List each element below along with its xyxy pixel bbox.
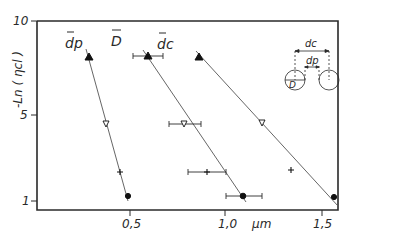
marker-D-circle <box>240 193 246 199</box>
y-tick-5: 5 <box>20 108 28 122</box>
marker-dc-plus <box>288 167 294 173</box>
markers <box>85 52 337 200</box>
marker-dp-open-triangle <box>103 121 109 127</box>
fit-lines <box>86 49 338 206</box>
svg-text:dc: dc <box>305 38 317 49</box>
marker-dc-circle <box>331 194 336 199</box>
series-label-dc: dc <box>157 33 174 52</box>
marker-dp-plus <box>117 169 123 175</box>
x-tick-1-5: 1,5 <box>313 217 332 231</box>
fit-line-dc <box>196 51 338 206</box>
marker-D-plus <box>204 169 210 175</box>
series-label-D: D <box>111 30 122 49</box>
marker-dc-triangle <box>195 53 203 60</box>
x-tick-1-0: 1,0 <box>218 217 237 231</box>
svg-text:D: D <box>289 80 296 90</box>
series-labels: dp D dc <box>65 30 174 52</box>
x-axis-ticks <box>130 210 322 216</box>
fit-line-D <box>143 50 246 202</box>
y-axis-ticks <box>31 21 37 201</box>
efficiency-vs-diameter-chart: 10 5 1 -Ln ( ηcl ) 0,5 1,0 1,5 µm dp D d… <box>0 0 393 243</box>
chart-container: 10 5 1 -Ln ( ηcl ) 0,5 1,0 1,5 µm dp D d… <box>0 0 393 243</box>
marker-dp-triangle <box>85 53 93 60</box>
y-tick-10: 10 <box>13 14 29 28</box>
y-axis-label: -Ln ( ηcl ) <box>11 51 25 108</box>
inset-labels: dc dp D <box>289 38 319 90</box>
y-axis-tick-labels: 10 5 1 <box>13 14 30 208</box>
series-label-dp: dp <box>65 32 83 51</box>
svg-text:D: D <box>111 33 122 49</box>
x-axis-unit-label: µm <box>251 217 271 231</box>
svg-text:dc: dc <box>157 36 174 52</box>
marker-dp-circle <box>125 193 130 198</box>
svg-text:dp: dp <box>306 55 319 66</box>
svg-text:dp: dp <box>65 35 83 51</box>
y-tick-1: 1 <box>22 194 30 208</box>
x-axis-tick-labels: 0,5 1,0 1,5 <box>122 217 332 231</box>
error-bars-D <box>133 53 262 199</box>
x-tick-0-5: 0,5 <box>122 217 141 231</box>
